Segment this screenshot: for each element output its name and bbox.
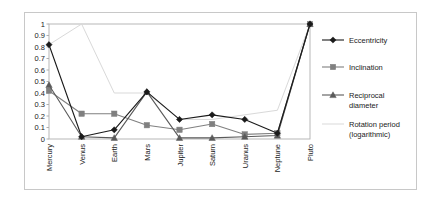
series-eccentricity (46, 21, 313, 140)
x-category-label-mars: Mars (143, 144, 152, 161)
y-tick-label-8: 0.2 (35, 112, 45, 121)
y-tick-label-9: 0.1 (35, 123, 45, 132)
series-layer (46, 21, 313, 141)
legend-label-inclination: Inclination (349, 63, 383, 72)
data-point-marker (209, 121, 214, 126)
data-point-marker (242, 116, 248, 122)
data-point-marker (144, 123, 149, 128)
x-category-label-mercury: Mercury (45, 144, 54, 171)
chart-canvas: 10.90.80.70.60.50.40.30.20.10 MercuryVen… (0, 0, 429, 206)
y-tick-label-4: 0.6 (35, 66, 45, 75)
x-category-label-saturn: Saturn (208, 144, 217, 166)
data-point-marker (46, 82, 52, 88)
legend-item-reciprocal-diameter: Reciprocaldiameter (322, 91, 385, 110)
y-tick-label-5: 0.5 (35, 77, 45, 86)
data-point-marker (209, 112, 215, 118)
data-point-marker (330, 64, 335, 69)
legend: EccentricityInclinationReciprocaldiamete… (322, 36, 400, 139)
legend-label-reciprocal-diameter: Reciprocal (349, 91, 385, 100)
y-tick-label-2: 0.8 (35, 43, 45, 52)
legend-item-rotation-period: Rotation period(logarithmic) (322, 120, 400, 139)
x-category-label-earth: Earth (110, 144, 119, 162)
y-tick-label-6: 0.4 (35, 89, 45, 98)
y-tick-label-0: 1 (41, 20, 45, 29)
legend-item-inclination: Inclination (322, 63, 383, 72)
data-point-marker (112, 111, 117, 116)
x-category-label-neptune: Neptune (273, 144, 282, 172)
legend-item-eccentricity: Eccentricity (322, 36, 388, 45)
x-category-label-venus: Venus (78, 144, 87, 165)
y-tick-label-7: 0.3 (35, 100, 45, 109)
y-tick-label-3: 0.7 (35, 54, 45, 63)
legend-label-eccentricity: Eccentricity (349, 36, 388, 45)
y-axis-tick-labels: 10.90.80.70.60.50.40.30.20.10 (35, 20, 45, 144)
x-category-label-jupiter: Jupiter (176, 144, 185, 167)
x-axis-category-labels: MercuryVenusEarthMarsJupiterSaturnUranus… (45, 144, 315, 173)
y-tick-label-1: 0.9 (35, 31, 45, 40)
chart-screenshot: 10.90.80.70.60.50.40.30.20.10 MercuryVen… (0, 0, 429, 206)
legend-label-rotation-period: Rotation period (349, 120, 400, 129)
data-point-marker (330, 37, 336, 43)
data-point-marker (79, 111, 84, 116)
data-point-marker (177, 127, 182, 132)
y-tick-label-10: 0 (41, 135, 45, 144)
legend-label-rotation-period-cont: (logarithmic) (349, 130, 391, 139)
x-category-label-uranus: Uranus (241, 144, 250, 168)
x-category-label-pluto: Pluto (306, 144, 315, 161)
series-rotation-period-logarithmic (49, 24, 310, 119)
series-line (49, 24, 310, 119)
legend-label-reciprocal-diameter-cont: diameter (349, 101, 379, 110)
